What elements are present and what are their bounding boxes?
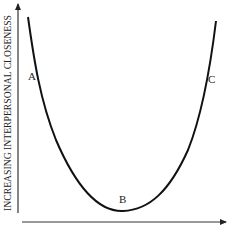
y-axis-label: INCREASING INTERPERSONAL CLOSENESS bbox=[2, 15, 13, 211]
point-label-c: C bbox=[208, 73, 215, 85]
point-label-b: B bbox=[119, 193, 126, 205]
u-curve-diagram: INCREASING INTERPERSONAL CLOSENESS A B C bbox=[0, 0, 230, 229]
point-label-a: A bbox=[28, 70, 36, 82]
closeness-curve bbox=[28, 17, 216, 211]
